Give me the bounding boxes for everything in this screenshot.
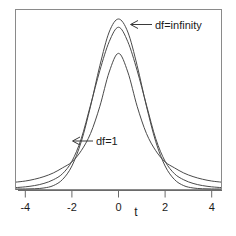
annotation-df-infinity: df=infinity: [131, 19, 203, 31]
x-axis-tick-labels: -4-2024: [20, 201, 214, 213]
x-tick-label-4: 4: [209, 201, 215, 213]
x-tick-label-2: 2: [162, 201, 168, 213]
curve-df-1: [16, 53, 221, 182]
x-axis: [18, 191, 222, 198]
curve-df-5: [16, 27, 221, 187]
x-tick-label--4: -4: [20, 201, 30, 213]
x-tick-label-0: 0: [115, 201, 121, 213]
x-tick-label--2: -2: [67, 201, 77, 213]
t-distribution-chart: df=infinity df=1 -4-2024 t: [0, 0, 236, 236]
chart-container: df=infinity df=1 -4-2024 t: [0, 0, 236, 236]
annotation-label-df-infinity: df=infinity: [155, 19, 202, 31]
plot-frame: [16, 10, 222, 190]
x-axis-ticks: [25, 191, 211, 198]
curve-df-infinity: [16, 19, 221, 189]
x-axis-title: t: [134, 205, 138, 219]
curve-group: [16, 19, 221, 189]
annotation-label-df-1: df=1: [96, 135, 118, 147]
